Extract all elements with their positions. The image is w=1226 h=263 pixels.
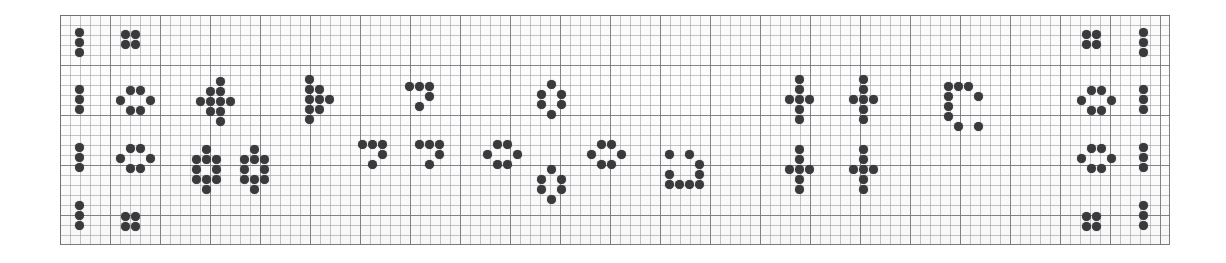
dot xyxy=(795,75,804,84)
dot xyxy=(75,143,84,152)
dot xyxy=(493,140,502,149)
dot xyxy=(795,85,804,94)
dot xyxy=(305,85,314,94)
dot xyxy=(250,155,259,164)
dot xyxy=(795,105,804,114)
dot xyxy=(126,106,135,115)
dot xyxy=(212,175,221,184)
dot xyxy=(695,160,704,169)
dot xyxy=(75,85,84,94)
dot xyxy=(795,155,804,164)
dot xyxy=(1139,48,1148,57)
dot xyxy=(805,165,814,174)
dot xyxy=(537,175,546,184)
dot xyxy=(206,97,215,106)
dot xyxy=(954,82,963,91)
dot xyxy=(260,175,269,184)
dot xyxy=(859,85,868,94)
dot xyxy=(557,185,566,194)
dot xyxy=(206,107,215,116)
dot xyxy=(859,95,868,104)
dot xyxy=(503,160,512,169)
dot xyxy=(325,95,334,104)
dot xyxy=(795,145,804,154)
dot xyxy=(617,150,626,159)
dot xyxy=(607,140,616,149)
dot xyxy=(859,155,868,164)
dot xyxy=(250,185,259,194)
dot xyxy=(869,165,878,174)
dot xyxy=(75,153,84,162)
dot xyxy=(202,145,211,154)
dot xyxy=(695,170,704,179)
dot xyxy=(869,95,878,104)
dot xyxy=(1139,38,1148,47)
dot xyxy=(1087,106,1096,115)
dot xyxy=(425,140,434,149)
dot xyxy=(805,95,814,104)
dot xyxy=(685,180,694,189)
dot xyxy=(136,106,145,115)
dot xyxy=(75,38,84,47)
dot xyxy=(136,164,145,173)
dot xyxy=(1087,144,1096,153)
dot xyxy=(192,175,201,184)
dot xyxy=(435,140,444,149)
dot xyxy=(597,140,606,149)
dot xyxy=(1082,30,1091,39)
dot xyxy=(315,85,324,94)
dot xyxy=(240,155,249,164)
dot xyxy=(415,82,424,91)
dot xyxy=(795,95,804,104)
dot xyxy=(859,165,868,174)
dot xyxy=(1139,201,1148,210)
dot xyxy=(146,154,155,163)
dot xyxy=(216,87,225,96)
dot xyxy=(216,77,225,86)
dot xyxy=(1082,40,1091,49)
dot xyxy=(964,82,973,91)
dot xyxy=(202,185,211,194)
dot xyxy=(1097,144,1106,153)
dot xyxy=(315,105,324,114)
dot xyxy=(378,150,387,159)
dot xyxy=(121,40,130,49)
dot xyxy=(587,150,596,159)
dot xyxy=(260,165,269,174)
dot xyxy=(859,175,868,184)
dot xyxy=(425,160,434,169)
dot xyxy=(1139,105,1148,114)
dot xyxy=(192,155,201,164)
dot xyxy=(405,82,414,91)
dot xyxy=(1097,106,1106,115)
dot xyxy=(131,222,140,231)
dot xyxy=(1139,153,1148,162)
dot xyxy=(121,222,130,231)
dot xyxy=(537,185,546,194)
dot xyxy=(547,110,556,119)
dot xyxy=(305,115,314,124)
dot xyxy=(415,140,424,149)
dot xyxy=(206,87,215,96)
dot xyxy=(1082,212,1091,221)
dot xyxy=(126,164,135,173)
dot xyxy=(415,102,424,111)
dot xyxy=(944,82,953,91)
dot xyxy=(795,165,804,174)
dot xyxy=(368,140,377,149)
dot xyxy=(1087,164,1096,173)
dot xyxy=(695,180,704,189)
dot xyxy=(944,112,953,121)
dot xyxy=(1092,212,1101,221)
dot xyxy=(116,154,125,163)
dot xyxy=(75,48,84,57)
dot xyxy=(1107,154,1116,163)
dot xyxy=(954,122,963,131)
dot xyxy=(1097,164,1106,173)
dot xyxy=(226,97,235,106)
dot xyxy=(859,75,868,84)
dot xyxy=(75,95,84,104)
dot xyxy=(974,92,983,101)
dot xyxy=(121,30,130,39)
dot xyxy=(1139,28,1148,37)
